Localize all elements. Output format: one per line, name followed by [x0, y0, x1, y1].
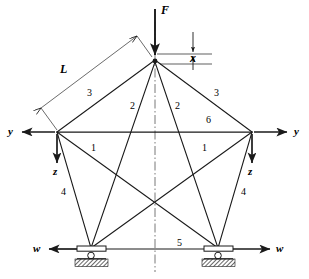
right-node-z-label: z: [248, 166, 252, 177]
truss-diagram: F x L 3 3 2 2 6 1 1 4 4 5 y z y z w w: [0, 0, 309, 279]
displacement-dimension-x: [157, 32, 212, 70]
member-label-2-left: 2: [130, 101, 135, 111]
member-2-left: [91, 62, 155, 248]
displacement-label-x: x: [190, 52, 196, 64]
member-label-4-left: 4: [61, 187, 66, 197]
member-label-1-right: 1: [202, 143, 207, 153]
left-roller-support: [75, 246, 108, 267]
member-label-6: 6: [206, 115, 211, 125]
member-3-right: [155, 60, 252, 132]
right-support-w-label: w: [276, 243, 283, 254]
length-label-L: L: [60, 63, 67, 75]
length-dimension-L: [41, 36, 152, 130]
member-label-3-left: 3: [87, 88, 92, 98]
member-label-1-left: 1: [91, 143, 96, 153]
left-node-dof-arrows: [22, 132, 57, 163]
member-label-4-right: 4: [241, 187, 246, 197]
member-4-right: [218, 132, 252, 248]
right-node-y-label: y: [294, 126, 299, 137]
member-label-5: 5: [177, 238, 182, 248]
left-node-y-label: y: [8, 126, 13, 137]
apex-joint: [153, 59, 158, 64]
left-support-w-label: w: [33, 243, 40, 254]
member-label-3-right: 3: [214, 88, 219, 98]
member-1-left: [57, 132, 218, 248]
diagram-canvas: [0, 0, 309, 279]
member-1-right: [91, 132, 252, 248]
member-label-2-right: 2: [175, 101, 180, 111]
left-node-z-label: z: [53, 166, 57, 177]
force-label-F: F: [161, 4, 169, 16]
right-roller-support: [202, 246, 235, 267]
right-node-dof-arrows: [252, 132, 287, 163]
member-2-right: [155, 62, 218, 248]
member-3-left: [57, 60, 155, 132]
